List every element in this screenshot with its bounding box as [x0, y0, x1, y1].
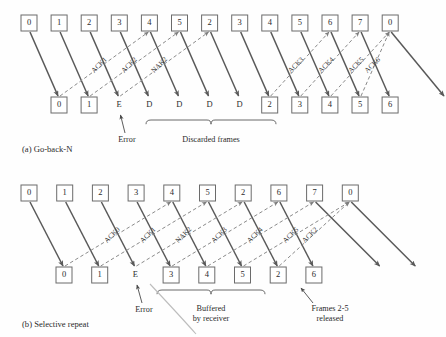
- receiver-slot-9[interactable]: 4: [322, 97, 338, 113]
- receiver-frame-label-11: 6: [388, 99, 392, 109]
- error-label-b-line-0: Error: [135, 305, 153, 314]
- receiver-frame-label-6: 2: [276, 269, 280, 279]
- ack-label-ack6: ACK6: [363, 55, 382, 74]
- receiver-slot-3[interactable]: D: [146, 99, 152, 109]
- receiver-frame-label-3: D: [146, 99, 152, 109]
- data-frame-arrow-6: [211, 32, 239, 96]
- sender-frame-label-11: 7: [358, 17, 362, 27]
- data-frame-arrow-9: [351, 202, 415, 266]
- sender-frame-label-10: 6: [328, 17, 332, 27]
- data-frame-arrow-0: [30, 202, 63, 266]
- sender-frame-label-12: 0: [388, 17, 392, 27]
- receiver-frame-label-5: D: [206, 99, 212, 109]
- error-pointer-b: [137, 285, 142, 303]
- buffered-label-line-0: Buffered: [197, 304, 226, 313]
- caption-b: (b) Selective repeat: [22, 319, 89, 329]
- data-frame-arrow-1: [60, 32, 88, 96]
- receiver-slot-2[interactable]: E: [133, 269, 138, 279]
- receiver-slot-4[interactable]: 4: [199, 267, 215, 283]
- sender-frame-label-3: 3: [134, 187, 138, 197]
- sender-frame-3[interactable]: 3: [111, 15, 127, 31]
- buffered-label-line-1: by receiver: [193, 314, 230, 323]
- sender-frame-5[interactable]: 5: [200, 185, 216, 201]
- receiver-slot-5[interactable]: 5: [235, 267, 251, 283]
- receiver-slot-5[interactable]: D: [206, 99, 212, 109]
- released-label-line-0: Frames 2-5: [311, 304, 348, 313]
- receiver-frame-label-7: 2: [268, 99, 272, 109]
- receiver-slot-0[interactable]: 0: [51, 97, 67, 113]
- receiver-frame-label-0: 0: [62, 269, 66, 279]
- sender-frame-label-7: 6: [277, 187, 281, 197]
- receiver-slot-7[interactable]: 6: [306, 267, 322, 283]
- sender-frame-7[interactable]: 6: [271, 185, 287, 201]
- panel-selective-repeat: ACK0ACK1NAK2ACK3ACK4ACK5ACK2012345267001…: [21, 185, 415, 323]
- ack-label-ack2: ACK2: [120, 55, 139, 74]
- receiver-slot-3[interactable]: 3: [163, 267, 179, 283]
- data-frame-arrow-8: [316, 202, 380, 266]
- receiver-slot-11[interactable]: 6: [382, 97, 398, 113]
- error-label-a-line-0: Error: [118, 135, 136, 144]
- receiver-frame-label-9: 4: [328, 99, 333, 109]
- sender-frame-8[interactable]: 7: [307, 185, 323, 201]
- ack-label-ack2: ACK2: [301, 225, 320, 244]
- sender-frame-10[interactable]: 6: [322, 15, 338, 31]
- sender-frame-1[interactable]: 1: [51, 15, 67, 31]
- sender-frame-9[interactable]: 0: [342, 185, 358, 201]
- sender-frame-label-2: 2: [98, 187, 102, 197]
- sender-frame-7[interactable]: 3: [232, 15, 248, 31]
- receiver-slot-1[interactable]: 1: [81, 97, 97, 113]
- receiver-slot-10[interactable]: 5: [352, 97, 368, 113]
- scan-artifact-line: [150, 284, 196, 334]
- sender-frame-6[interactable]: 2: [235, 185, 251, 201]
- receiver-slot-6[interactable]: 2: [270, 267, 286, 283]
- receiver-slot-8[interactable]: 3: [292, 97, 308, 113]
- sender-frame-label-5: 5: [205, 187, 209, 197]
- ack-label-ack4: ACK4: [317, 55, 336, 74]
- sender-frame-2[interactable]: 2: [92, 185, 108, 201]
- sender-frame-1[interactable]: 1: [57, 185, 73, 201]
- receiver-slot-6[interactable]: D: [237, 99, 243, 109]
- sender-frame-label-9: 5: [298, 17, 302, 27]
- panel-go-back-n: ACK1ACK2NAK2ACK3ACK4ACK5ACK6012345234567…: [21, 15, 444, 144]
- receiver-slot-1[interactable]: 1: [92, 267, 108, 283]
- sender-frame-11[interactable]: 7: [352, 15, 368, 31]
- receiver-slot-4[interactable]: D: [176, 99, 182, 109]
- receiver-slot-7[interactable]: 2: [262, 97, 278, 113]
- sender-frame-label-0: 0: [27, 17, 31, 27]
- sender-frame-3[interactable]: 3: [128, 185, 144, 201]
- sender-frame-label-3: 3: [117, 17, 121, 27]
- data-frame-arrow-0: [30, 32, 58, 96]
- receiver-frame-label-4: D: [176, 99, 182, 109]
- sender-frame-0[interactable]: 0: [21, 15, 37, 31]
- receiver-frame-label-1: 1: [98, 269, 102, 279]
- sender-frame-4[interactable]: 4: [141, 15, 157, 31]
- receiver-frame-label-10: 5: [358, 99, 362, 109]
- receiver-slot-0[interactable]: 0: [56, 267, 72, 283]
- error-pointer-a: [121, 115, 126, 133]
- sender-frame-label-2: 2: [87, 17, 91, 27]
- sender-frame-label-6: 2: [207, 17, 211, 27]
- receiver-frame-label-7: 6: [312, 269, 316, 279]
- receiver-frame-label-8: 3: [298, 99, 302, 109]
- sender-frame-9[interactable]: 5: [292, 15, 308, 31]
- sender-frame-6[interactable]: 2: [202, 15, 218, 31]
- sender-frame-label-9: 0: [348, 187, 352, 197]
- receiver-frame-label-0: 0: [57, 99, 61, 109]
- receiver-slot-2[interactable]: E: [117, 99, 122, 109]
- sender-frame-2[interactable]: 2: [81, 15, 97, 31]
- data-frame-arrow-12: [391, 32, 444, 96]
- discarded-frames-label-line-0: Discarded frames: [182, 135, 240, 144]
- receiver-frame-label-5: 5: [240, 269, 244, 279]
- sender-frame-8[interactable]: 4: [262, 15, 278, 31]
- sender-frame-label-8: 7: [312, 187, 316, 197]
- sender-frame-4[interactable]: 4: [164, 185, 180, 201]
- released-pointer: [301, 288, 313, 303]
- sender-frame-label-1: 1: [57, 17, 61, 27]
- sender-frame-label-7: 3: [238, 17, 242, 27]
- protocol-timing-diagram: ACK1ACK2NAK2ACK3ACK4ACK5ACK6012345234567…: [0, 0, 446, 337]
- sender-frame-5[interactable]: 5: [172, 15, 188, 31]
- sender-frame-12[interactable]: 0: [382, 15, 398, 31]
- sender-frame-0[interactable]: 0: [21, 185, 37, 201]
- caption-a: (a) Go-back-N: [22, 144, 73, 154]
- sender-frame-label-4: 4: [147, 17, 152, 27]
